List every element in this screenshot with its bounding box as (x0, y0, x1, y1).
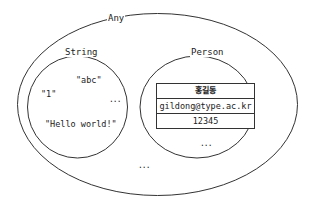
string-value-hello-world: "Hello world!" (45, 119, 117, 129)
person-set-label: Person (190, 47, 225, 57)
person-record-email: gildong@type.ac.kr (157, 98, 254, 113)
any-set-label: Any (107, 13, 125, 23)
any-ellipsis: ... (138, 162, 149, 170)
string-ellipsis: ... (109, 96, 120, 104)
string-value-1: "1" (41, 89, 56, 99)
string-set-label: String (64, 47, 99, 57)
string-set-ellipse (28, 56, 128, 158)
person-record-id: 12345 (157, 113, 254, 128)
person-record-name: 홍길동 (157, 84, 254, 98)
person-record: 홍길동 gildong@type.ac.kr 12345 (156, 83, 255, 129)
person-ellipsis: ... (200, 140, 211, 148)
string-value-abc: "abc" (76, 75, 102, 85)
